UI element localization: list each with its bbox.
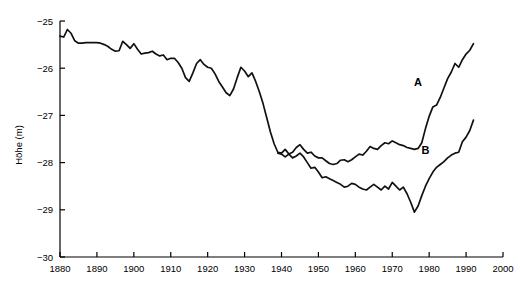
x-tick-label: 1940 xyxy=(271,263,292,274)
x-tick-label: 1920 xyxy=(197,263,218,274)
x-tick-label: 1950 xyxy=(308,263,329,274)
y-tick-label: −29 xyxy=(37,204,53,215)
y-tick-label: −26 xyxy=(37,63,53,74)
y-tick-label: −25 xyxy=(37,16,53,27)
x-tick-label: 1980 xyxy=(419,263,440,274)
series-group xyxy=(60,30,473,213)
y-tick-label: −30 xyxy=(37,252,53,263)
x-tick-label: 1960 xyxy=(345,263,366,274)
x-tick-label: 2000 xyxy=(492,263,513,274)
x-tick-label: 1930 xyxy=(234,263,255,274)
y-tick-label: −28 xyxy=(37,157,53,168)
series-label-b: B xyxy=(421,144,429,156)
chart-canvas: 1880189019001910192019301940195019601970… xyxy=(0,0,520,286)
axes-group xyxy=(60,21,503,257)
x-tick-label: 1970 xyxy=(382,263,403,274)
y-tick-label: −27 xyxy=(37,110,53,121)
annotation-group: AB xyxy=(414,76,429,156)
series-line-b xyxy=(278,120,474,212)
x-tick-label: 1910 xyxy=(160,263,181,274)
x-tick-label: 1880 xyxy=(49,263,70,274)
x-tick-group: 1880189019001910192019301940195019601970… xyxy=(49,252,513,274)
series-label-a: A xyxy=(414,76,422,88)
chart-figure: 1880189019001910192019301940195019601970… xyxy=(0,0,520,286)
x-tick-label: 1890 xyxy=(86,263,107,274)
y-tick-group: −25−26−27−28−29−30 xyxy=(37,16,65,263)
series-line-a xyxy=(60,30,473,165)
y-axis-title: Höhe (m) xyxy=(13,125,24,165)
x-tick-label: 1900 xyxy=(123,263,144,274)
x-tick-label: 1990 xyxy=(456,263,477,274)
